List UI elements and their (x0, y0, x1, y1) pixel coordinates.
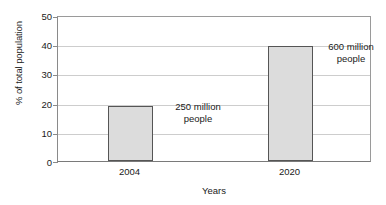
x-tick-label-2020: 2020 (260, 166, 320, 177)
y-axis-title: % of total population (12, 0, 26, 138)
bar-2004[interactable] (108, 106, 153, 161)
y-tick-mark-40 (53, 46, 58, 47)
y-tick-mark-30 (53, 75, 58, 76)
y-tick-label-0: 0 (28, 158, 52, 167)
x-axis-title: Years (57, 185, 371, 196)
gridline-10 (58, 134, 370, 135)
y-tick-mark-0 (53, 162, 58, 163)
plot-area (57, 16, 371, 162)
y-tick-label-20: 20 (28, 100, 52, 109)
y-tick-label-50: 50 (28, 12, 52, 21)
y-tick-label-40: 40 (28, 41, 52, 50)
y-tick-mark-10 (53, 134, 58, 135)
y-tick-label-30: 30 (28, 70, 52, 79)
annotation-2020: 600 million people (316, 41, 386, 65)
bar-2020[interactable] (268, 46, 313, 161)
gridline-30 (58, 75, 370, 76)
y-tick-mark-20 (53, 105, 58, 106)
bar-chart-figure: % of total population 0 10 20 30 40 50 2… (0, 0, 386, 205)
x-tick-label-2004: 2004 (100, 166, 160, 177)
y-tick-label-10: 10 (28, 129, 52, 138)
y-tick-mark-50 (53, 17, 58, 18)
annotation-2004: 250 million people (155, 101, 241, 125)
